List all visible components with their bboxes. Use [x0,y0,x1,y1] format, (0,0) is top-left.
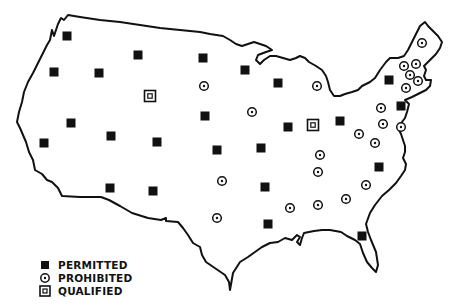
us-outline [17,15,442,290]
marker-sd-prohibited [200,82,209,91]
marker-wi-permitted [274,79,283,88]
marker-pa-prohibited [377,104,386,113]
marker-ne-permitted [201,112,210,121]
marker-ct-prohibited [402,84,411,93]
marker-ga-prohibited [342,195,351,204]
legend: PERMITTED PROHIBITED QUALIFIED [38,259,132,298]
marker-ri-prohibited [414,77,423,86]
marker-az-permitted [106,184,115,193]
marker-id-permitted [95,69,104,78]
marker-ca-permitted [40,139,49,148]
filled-square-icon [38,259,52,271]
legend-item-prohibited: PROHIBITED [38,272,132,284]
marker-md-prohibited [379,120,388,129]
marker-la-permitted [264,220,273,229]
marker-vt-prohibited [400,62,409,71]
marker-il-permitted [284,123,293,132]
marker-va-prohibited [371,139,380,148]
marker-ms-prohibited [286,204,295,213]
marker-nh-prohibited [412,60,421,69]
marker-ok-prohibited [218,177,227,186]
marker-ny-permitted [385,76,394,85]
marker-tn-prohibited [314,168,323,177]
marker-wa-permitted [63,32,72,41]
marker-ky-prohibited [316,151,325,160]
marker-wv-prohibited [355,130,364,139]
marker-fl-permitted [358,232,367,241]
marker-al-prohibited [314,201,323,210]
marker-nj-permitted [397,102,406,111]
marker-ut-permitted [107,132,116,141]
marker-ia-prohibited [248,108,257,117]
marker-nc-permitted [375,163,384,172]
legend-label-prohibited: PROHIBITED [58,272,132,284]
marker-nd-permitted [199,54,208,63]
dotted-circle-icon [38,272,52,284]
marker-me-prohibited [418,39,427,48]
legend-item-permitted: PERMITTED [38,259,132,271]
marker-ks-permitted [213,146,222,155]
marker-mt-permitted [134,51,143,60]
marker-mn-permitted [241,66,250,75]
marker-co-permitted [153,138,162,147]
marker-tx-prohibited [213,214,222,223]
legend-label-permitted: PERMITTED [58,259,128,271]
marker-ar-permitted [261,183,270,192]
legend-item-qualified: QUALIFIED [38,285,132,297]
marker-in-qualified [308,120,319,131]
marker-nm-permitted [149,187,158,196]
marker-mi-prohibited [313,82,322,91]
marker-sc-prohibited [362,181,371,190]
marker-or-permitted [50,68,59,77]
marker-layer [40,32,427,241]
marker-ma-prohibited [406,71,415,80]
marker-de-prohibited [397,123,406,132]
double-square-icon [38,285,52,297]
marker-mo-permitted [257,144,266,153]
marker-wy-qualified [145,91,156,102]
marker-oh-permitted [336,117,345,126]
marker-nv-permitted [67,119,76,128]
legend-label-qualified: QUALIFIED [58,285,123,297]
